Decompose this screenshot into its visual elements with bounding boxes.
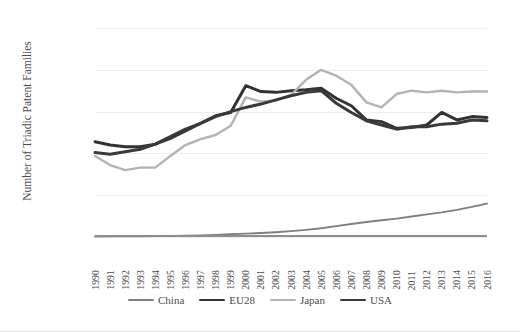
legend-label: China xyxy=(158,294,184,306)
legend-item-japan[interactable]: Japan xyxy=(270,294,325,306)
chart-figure: Number of Triadic Patent Families 05,000… xyxy=(0,0,520,332)
x-tick-label: 1991 xyxy=(105,270,116,290)
x-tick-label: 1994 xyxy=(150,270,161,290)
x-tick-label: 2010 xyxy=(391,270,402,290)
x-tick-label: 1993 xyxy=(135,270,146,290)
x-tick-label: 2000 xyxy=(240,270,251,290)
x-axis-line xyxy=(95,235,487,237)
legend-swatch-icon xyxy=(340,299,366,302)
legend-item-china[interactable]: China xyxy=(128,294,184,306)
x-tick-label: 2014 xyxy=(451,270,462,290)
y-axis-title: Number of Triadic Patent Families xyxy=(21,21,37,221)
legend-item-usa[interactable]: USA xyxy=(340,294,392,306)
x-tick-label: 1998 xyxy=(210,270,221,290)
x-tick-label: 1996 xyxy=(180,270,191,290)
x-tick-label: 2006 xyxy=(331,270,342,290)
legend-label: Japan xyxy=(300,294,325,306)
x-axis-tick-labels: 1990199119921993199419951996199719981999… xyxy=(95,238,487,290)
x-tick-label: 2009 xyxy=(376,270,387,290)
x-tick-label: 1995 xyxy=(165,270,176,290)
chart-title-strip xyxy=(0,0,520,12)
legend-label: EU28 xyxy=(229,294,255,306)
x-tick-label: 2003 xyxy=(286,270,297,290)
series-lines xyxy=(95,28,487,237)
series-line-china xyxy=(95,204,487,237)
chart-legend: ChinaEU28JapanUSA xyxy=(0,291,520,309)
legend-swatch-icon xyxy=(199,299,225,302)
x-tick-label: 1999 xyxy=(225,270,236,290)
x-tick-label: 2005 xyxy=(316,270,327,290)
legend-swatch-icon xyxy=(128,299,154,302)
x-tick-label: 2008 xyxy=(361,270,372,290)
legend-label: USA xyxy=(370,294,392,306)
x-tick-label: 1992 xyxy=(120,270,131,290)
x-tick-label: 2013 xyxy=(436,270,447,290)
x-tick-label: 2004 xyxy=(301,270,312,290)
x-tick-label: 2002 xyxy=(270,270,281,290)
x-tick-label: 2007 xyxy=(346,270,357,290)
x-tick-label: 2001 xyxy=(255,270,266,290)
x-tick-label: 1990 xyxy=(90,270,101,290)
x-tick-label: 2016 xyxy=(482,270,493,290)
series-line-japan xyxy=(95,70,487,170)
plot-area xyxy=(95,28,487,237)
legend-item-eu28[interactable]: EU28 xyxy=(199,294,255,306)
x-tick-label: 2012 xyxy=(421,270,432,290)
x-tick-label: 1997 xyxy=(195,270,206,290)
x-tick-label: 2011 xyxy=(406,271,417,290)
x-tick-label: 2015 xyxy=(466,270,477,290)
legend-swatch-icon xyxy=(270,299,296,302)
